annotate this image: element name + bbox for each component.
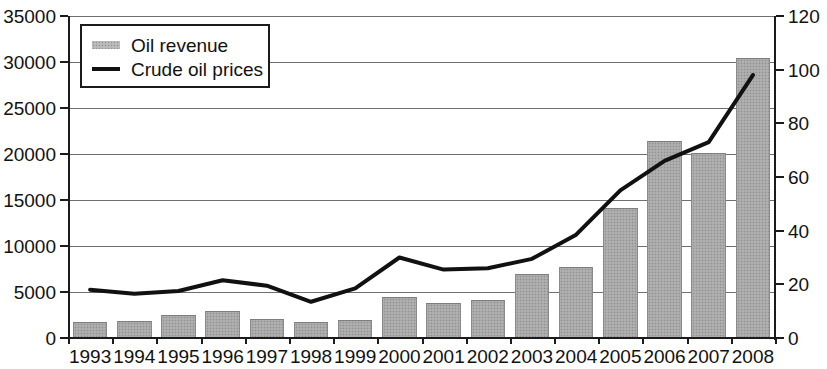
y-axis-right-tick	[776, 337, 784, 339]
x-axis-label: 2002	[466, 347, 510, 366]
x-axis-tick	[422, 338, 424, 344]
oil-revenue-crude-price-chart: 0500010000150002000025000300003500002040…	[0, 0, 827, 369]
y-axis-left-label: 5000	[14, 283, 56, 302]
legend-label-oil-revenue: Oil revenue	[131, 36, 228, 55]
x-axis-tick	[377, 338, 379, 344]
x-axis-tick	[68, 338, 70, 344]
x-axis-label: 2007	[687, 347, 731, 366]
y-axis-left-tick	[60, 153, 68, 155]
legend-entry-crude-oil-prices: Crude oil prices	[92, 57, 268, 81]
x-axis-tick	[687, 338, 689, 344]
x-axis-label: 2005	[598, 347, 642, 366]
y-axis-right-label: 120	[788, 7, 820, 26]
y-axis-left-tick	[60, 337, 68, 339]
y-axis-left-label: 30000	[3, 53, 56, 72]
x-axis-tick	[510, 338, 512, 344]
y-axis-left-tick	[60, 245, 68, 247]
x-axis-label: 2006	[642, 347, 686, 366]
x-axis-tick	[333, 338, 335, 344]
y-axis-right-tick	[776, 230, 784, 232]
y-axis-right-tick	[776, 15, 784, 17]
legend-entry-oil-revenue: Oil revenue	[92, 33, 268, 57]
y-axis-right-label: 80	[788, 114, 809, 133]
y-axis-left-tick	[60, 15, 68, 17]
y-axis-left-tick	[60, 107, 68, 109]
y-axis-right-label: 20	[788, 275, 809, 294]
x-axis-tick	[289, 338, 291, 344]
y-axis-left-label: 15000	[3, 191, 56, 210]
x-axis-tick	[554, 338, 556, 344]
x-axis-label: 1996	[201, 347, 245, 366]
x-axis-tick	[112, 338, 114, 344]
y-axis-left-label: 35000	[3, 7, 56, 26]
x-axis-label: 1999	[333, 347, 377, 366]
y-axis-right-label: 100	[788, 61, 820, 80]
x-axis-tick	[245, 338, 247, 344]
legend-label-crude-oil-prices: Crude oil prices	[131, 60, 263, 79]
bar-swatch-icon	[92, 41, 120, 49]
y-axis-left-label: 10000	[3, 237, 56, 256]
x-axis-label: 1995	[156, 347, 200, 366]
y-axis-right-tick	[776, 176, 784, 178]
y-axis-right-label: 40	[788, 222, 809, 241]
x-axis-label: 1998	[289, 347, 333, 366]
x-axis-label: 2001	[422, 347, 466, 366]
y-axis-right-line	[774, 16, 776, 340]
chart-legend: Oil revenue Crude oil prices	[80, 24, 270, 88]
x-axis-label: 1997	[245, 347, 289, 366]
x-axis-tick	[156, 338, 158, 344]
y-axis-left-tick	[60, 61, 68, 63]
y-axis-left-label: 20000	[3, 145, 56, 164]
x-axis-label: 1994	[112, 347, 156, 366]
y-axis-right-label: 60	[788, 168, 809, 187]
x-axis-label: 2004	[554, 347, 598, 366]
x-axis-tick	[466, 338, 468, 344]
x-axis-label: 2000	[377, 347, 421, 366]
y-axis-left-tick	[60, 291, 68, 293]
x-axis-tick	[201, 338, 203, 344]
x-axis-label: 1993	[68, 347, 112, 366]
crude-oil-price-polyline	[90, 75, 753, 302]
x-axis-tick	[775, 338, 777, 344]
y-axis-left-line	[68, 16, 70, 340]
x-axis-tick	[731, 338, 733, 344]
y-axis-right-tick	[776, 69, 784, 71]
y-axis-right-tick	[776, 122, 784, 124]
y-axis-left-tick	[60, 199, 68, 201]
y-axis-right-tick	[776, 283, 784, 285]
y-axis-left-label: 0	[45, 329, 56, 348]
y-axis-left-label: 25000	[3, 99, 56, 118]
line-swatch-icon	[92, 67, 120, 71]
x-axis-label: 2003	[510, 347, 554, 366]
x-axis-label: 2008	[731, 347, 775, 366]
x-axis-tick	[642, 338, 644, 344]
x-axis-tick	[598, 338, 600, 344]
y-axis-right-label: 0	[788, 329, 799, 348]
